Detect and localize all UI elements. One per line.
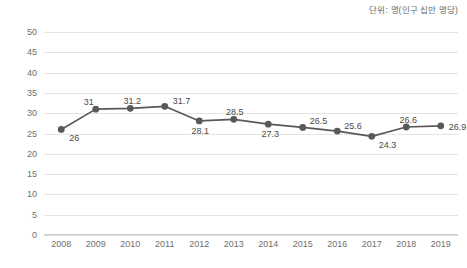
data-point-label: 31.7 bbox=[173, 96, 191, 106]
x-axis-tick-label: 2013 bbox=[224, 239, 244, 250]
data-point-label: 26 bbox=[69, 133, 79, 143]
data-point-label: 28.1 bbox=[191, 126, 209, 136]
gridline bbox=[44, 93, 458, 94]
gridline bbox=[44, 174, 458, 175]
data-point-label: 31.2 bbox=[123, 96, 141, 106]
unit-note: 단위: 명(인구 십만 명당) bbox=[369, 5, 458, 16]
gridline bbox=[44, 73, 458, 74]
plot-area: 05101520253035404550 bbox=[44, 32, 458, 235]
data-point-label: 26.9 bbox=[449, 122, 467, 132]
y-axis-tick-label: 15 bbox=[27, 170, 37, 179]
y-axis-tick-label: 20 bbox=[27, 149, 37, 158]
gridline bbox=[44, 154, 458, 155]
gridline bbox=[44, 52, 458, 53]
gridline bbox=[44, 134, 458, 135]
data-point-label: 25.6 bbox=[344, 121, 362, 131]
y-axis-tick-label: 0 bbox=[32, 231, 37, 240]
y-axis-tick-label: 30 bbox=[27, 109, 37, 118]
x-axis-tick-label: 2015 bbox=[293, 239, 313, 250]
gridline bbox=[44, 194, 458, 195]
x-axis-tick-label: 2010 bbox=[120, 239, 140, 250]
data-point-label: 26.5 bbox=[310, 116, 328, 126]
y-axis-tick-label: 45 bbox=[27, 48, 37, 57]
data-point-label: 26.6 bbox=[399, 115, 417, 125]
x-axis-tick-label: 2019 bbox=[431, 239, 451, 250]
gridline bbox=[44, 235, 458, 236]
data-point-label: 28.5 bbox=[226, 107, 244, 117]
y-axis-tick-label: 10 bbox=[27, 190, 37, 199]
gridline bbox=[44, 32, 458, 33]
x-axis-tick-label: 2014 bbox=[258, 239, 278, 250]
y-axis-tick-label: 25 bbox=[27, 129, 37, 138]
x-axis-tick-label: 2012 bbox=[189, 239, 209, 250]
gridline bbox=[44, 113, 458, 114]
y-axis-tick-label: 5 bbox=[32, 210, 37, 219]
y-axis-tick-label: 35 bbox=[27, 88, 37, 97]
x-axis-tick-label: 2017 bbox=[362, 239, 382, 250]
data-point-label: 31 bbox=[84, 97, 94, 107]
data-point-label: 24.3 bbox=[379, 140, 397, 150]
x-axis-tick-label: 2018 bbox=[396, 239, 416, 250]
y-axis-tick-label: 40 bbox=[27, 68, 37, 77]
x-axis-tick-label: 2009 bbox=[86, 239, 106, 250]
x-axis-tick-label: 2008 bbox=[51, 239, 71, 250]
line-chart: 단위: 명(인구 십만 명당) 05101520253035404550 200… bbox=[0, 0, 467, 268]
data-point-label: 27.3 bbox=[261, 129, 279, 139]
x-axis-tick-label: 2011 bbox=[155, 239, 174, 250]
y-axis-tick-label: 50 bbox=[27, 28, 37, 37]
gridline bbox=[44, 215, 458, 216]
x-axis-line bbox=[44, 234, 458, 235]
x-axis-tick-label: 2016 bbox=[327, 239, 347, 250]
